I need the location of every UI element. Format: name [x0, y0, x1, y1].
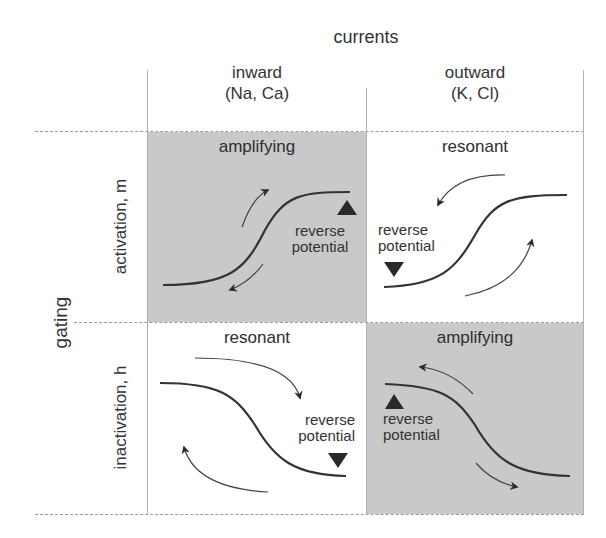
- triangle-down-inactivation-inward: [328, 453, 348, 468]
- triangle-down-activation-outward: [384, 262, 404, 277]
- arrow-right-inactivation-outward: [476, 463, 517, 487]
- sigmoid-curve-inactivation-outward: [385, 384, 570, 476]
- curves-layer: [0, 0, 606, 538]
- arrow-down-activation-inward: [230, 264, 263, 290]
- arrow-left-activation-outward: [438, 175, 505, 205]
- arrow-up-activation-inward: [242, 190, 268, 227]
- arrow-up-activation-outward: [465, 240, 532, 296]
- sigmoid-curve-inactivation-inward: [160, 383, 346, 476]
- arrow-up-inactivation-inward: [184, 447, 268, 492]
- triangle-up-activation-inward: [337, 200, 357, 215]
- triangle-up-inactivation-outward: [385, 394, 404, 409]
- sigmoid-curve-activation-outward: [384, 195, 567, 287]
- arrow-right-inactivation-inward: [195, 358, 300, 398]
